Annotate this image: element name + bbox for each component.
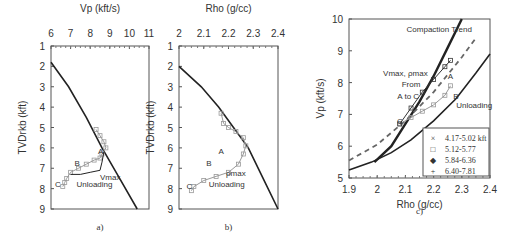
- annotation: B: [206, 159, 211, 168]
- x-tick-label: 11: [144, 28, 155, 39]
- annotation: C: [55, 180, 61, 189]
- y-tick-label: 7: [167, 163, 173, 174]
- y-tick-label: 3: [39, 82, 45, 93]
- panel-c: 1.922.12.22.32.45678910Rho (g/cc)Vp (kft…: [315, 14, 497, 216]
- y-tick-label: 9: [337, 46, 343, 57]
- y-axis-label: TVDrkb (kft): [17, 101, 28, 155]
- annotation: B: [453, 92, 458, 101]
- panel-caption: c): [416, 206, 423, 216]
- annotation: A: [448, 72, 454, 81]
- y-tick-label: 9: [167, 204, 173, 215]
- legend-label: 5.12-5.77: [445, 145, 476, 154]
- annotation: A to C: [397, 92, 419, 101]
- x-tick-label: 2.4: [483, 184, 497, 195]
- y-tick-label: 6: [39, 143, 45, 154]
- x-axis-label: Rho (g/cc): [205, 3, 251, 14]
- annotation: Unloading: [76, 180, 112, 189]
- x-tick-label: 9: [107, 28, 113, 39]
- y-tick-label: 4: [39, 102, 45, 113]
- annotation: From: [402, 80, 421, 89]
- legend-label: 6.40-7.81: [445, 167, 476, 176]
- x-tick-label: 2.1: [398, 184, 412, 195]
- annotation: ρmax: [226, 169, 246, 178]
- annotation: B: [75, 159, 80, 168]
- x-tick-label: 1.9: [342, 184, 356, 195]
- x-axis-label: Vp (kft/s): [80, 3, 120, 14]
- data-point: [61, 185, 65, 189]
- annotation: A: [98, 147, 104, 156]
- y-tick-label: 6: [167, 143, 173, 154]
- legend-label: 4.17-5.02 kft: [445, 134, 487, 143]
- x-tick-label: 2.3: [455, 184, 469, 195]
- y-axis-label: TVDrkb (kft): [145, 101, 156, 155]
- legend-symbol: □: [431, 145, 436, 154]
- x-tick-label: 2.4: [271, 28, 285, 39]
- x-tick-label: 10: [124, 28, 136, 39]
- y-tick-label: 2: [39, 61, 45, 72]
- y-axis-label: Vp (kft/s): [315, 78, 326, 118]
- annotation: C: [397, 117, 403, 126]
- annotation: Compaction Trend: [407, 25, 472, 34]
- y-tick-label: 3: [167, 82, 173, 93]
- panel-caption: b): [225, 222, 233, 232]
- panel-a: 67891011123456789Vp (kft/s)TVDrkb (kft)a…: [17, 3, 155, 232]
- legend-symbol: ×: [431, 134, 436, 143]
- legend-symbol: ◆: [430, 156, 437, 165]
- y-tick-label: 10: [332, 14, 344, 25]
- x-tick-label: 8: [87, 28, 93, 39]
- legend-label: 5.84-6.36: [445, 156, 476, 165]
- legend-symbol: +: [431, 167, 436, 176]
- y-tick-label: 8: [39, 184, 45, 195]
- y-tick-label: 9: [39, 204, 45, 215]
- figure: 67891011123456789Vp (kft/s)TVDrkb (kft)a…: [0, 0, 523, 241]
- panel-caption: a): [97, 222, 104, 232]
- y-tick-label: 1: [39, 41, 45, 52]
- annotation: Vmax, ρmax: [383, 69, 428, 78]
- y-tick-label: 5: [39, 123, 45, 134]
- y-tick-label: 7: [39, 163, 45, 174]
- panel-b: 22.12.22.32.4123456789Rho (g/cc)TVDrkb (…: [145, 3, 285, 232]
- annotation: Unloading: [456, 101, 492, 110]
- x-tick-label: 6: [48, 28, 54, 39]
- y-tick-label: 4: [167, 102, 173, 113]
- y-tick-label: 8: [167, 184, 173, 195]
- x-tick-label: 2: [374, 184, 380, 195]
- x-tick-label: 2: [176, 28, 182, 39]
- y-tick-label: 6: [337, 141, 343, 152]
- x-tick-label: 2.3: [246, 28, 260, 39]
- annotation: A: [219, 147, 225, 156]
- x-tick-label: 2.2: [427, 184, 441, 195]
- y-tick-label: 5: [337, 173, 343, 184]
- annotation: Unloading: [209, 180, 245, 189]
- x-tick-label: 2.1: [197, 28, 211, 39]
- annotation: C: [186, 182, 192, 191]
- y-tick-label: 2: [167, 61, 173, 72]
- y-tick-label: 7: [337, 109, 343, 120]
- y-tick-label: 8: [337, 78, 343, 89]
- y-tick-label: 1: [167, 41, 173, 52]
- x-tick-label: 2.2: [222, 28, 236, 39]
- x-tick-label: 7: [68, 28, 74, 39]
- y-tick-label: 5: [167, 123, 173, 134]
